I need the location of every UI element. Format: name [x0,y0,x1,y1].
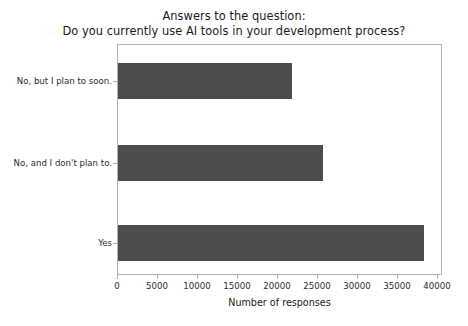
y-tick-mark-1 [113,163,117,164]
x-tick-mark-8 [437,275,438,279]
x-tick-label-8: 40000 [423,281,450,291]
chart-figure: Answers to the question: Do you currentl… [0,0,468,326]
x-tick-label-7: 35000 [383,281,410,291]
x-tick-label-3: 15000 [223,281,250,291]
x-tick-label-0: 0 [114,281,119,291]
x-tick-mark-4 [277,275,278,279]
x-tick-label-1: 5000 [146,281,168,291]
chart-title-line-1: Answers to the question: [0,9,468,24]
x-tick-mark-5 [317,275,318,279]
x-tick-mark-0 [117,275,118,279]
x-tick-label-4: 20000 [263,281,290,291]
y-tick-label-2: Yes [0,238,112,248]
x-tick-mark-1 [157,275,158,279]
x-tick-label-5: 25000 [303,281,330,291]
x-tick-label-6: 30000 [343,281,370,291]
x-axis-title: Number of responses [117,297,442,308]
bars-layer [118,45,442,275]
x-tick-mark-7 [397,275,398,279]
y-tick-mark-2 [113,243,117,244]
x-tick-mark-3 [237,275,238,279]
chart-title: Answers to the question: Do you currentl… [0,9,468,39]
y-tick-label-0: No, but I plan to soon. [0,76,112,86]
bar-1 [118,145,323,181]
y-tick-mark-0 [113,81,117,82]
chart-title-line-2: Do you currently use AI tools in your de… [0,24,468,39]
x-tick-mark-2 [197,275,198,279]
x-tick-mark-6 [357,275,358,279]
bar-2 [118,225,424,261]
y-tick-label-1: No, and I don't plan to. [0,158,112,168]
x-tick-label-2: 10000 [183,281,210,291]
bar-0 [118,63,292,99]
